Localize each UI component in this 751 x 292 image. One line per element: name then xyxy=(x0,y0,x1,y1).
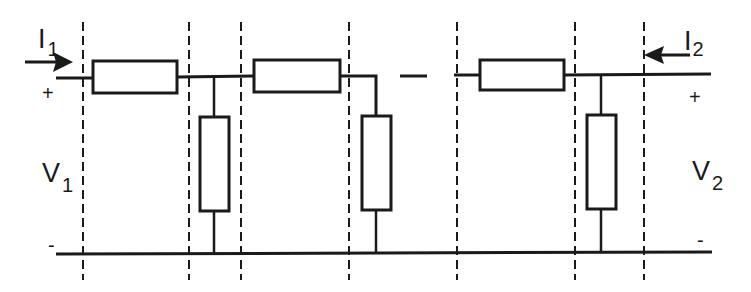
circuit-drawing xyxy=(0,0,751,292)
input-minus-sign: - xyxy=(48,235,55,255)
shunt-resistors xyxy=(200,115,616,211)
bottom-rail xyxy=(56,209,712,254)
top-wire-1 xyxy=(177,76,254,77)
output-plus-sign: + xyxy=(689,87,701,107)
voltage-label-v2: V2 xyxy=(692,158,721,185)
series-resistors xyxy=(93,60,564,93)
output-wire xyxy=(564,74,711,75)
input-plus-sign: + xyxy=(42,83,54,103)
shunt-resistor-1 xyxy=(200,117,229,211)
voltage-label-v1: V1 xyxy=(42,160,71,187)
ground-wire xyxy=(56,252,712,254)
current-label-i2: I2 xyxy=(684,28,703,55)
series-resistor-1 xyxy=(93,61,177,93)
shunt-resistor-2 xyxy=(362,116,391,210)
top-wire-2 xyxy=(340,76,376,116)
shunt-resistor-3 xyxy=(587,115,616,209)
current-subscript: 2 xyxy=(693,38,704,60)
series-resistor-3 xyxy=(480,60,564,90)
current-symbol: I xyxy=(38,24,46,54)
voltage-symbol: V xyxy=(42,158,60,188)
voltage-subscript: 1 xyxy=(62,174,73,196)
output-minus-sign: - xyxy=(697,230,704,250)
current-label-i1: I1 xyxy=(38,26,57,53)
arrow-left-icon xyxy=(644,46,664,64)
current-symbol: I xyxy=(684,26,692,56)
ladder-network-diagram: I1 + V1 - I2 + V2 - xyxy=(0,0,751,292)
current-subscript: 1 xyxy=(48,38,59,60)
voltage-symbol: V xyxy=(692,156,710,186)
voltage-subscript: 2 xyxy=(712,172,723,194)
series-resistor-2 xyxy=(254,60,340,92)
